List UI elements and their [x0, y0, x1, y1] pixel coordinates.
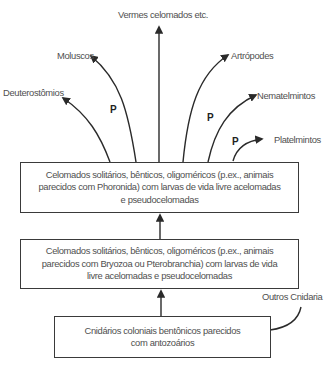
box-text-line: parecidos com Phoronida) com larvas de v… [38, 181, 280, 194]
p-mark-platelmintos: P [232, 137, 239, 147]
box-cnidaria-level: Cnidários coloniais bentônicos parecidos… [54, 316, 271, 358]
label-artropodes: Artrópodes [231, 50, 273, 61]
label-outros-cnidaria: Outros Cnidaria [262, 291, 322, 302]
box-text-line: Celomados solitários, bênticos, oligomér… [46, 245, 274, 258]
box-bryozoa-level: Celomados solitários, bênticos, oligomér… [20, 239, 299, 289]
label-deuterostomios: Deuterostômios [3, 87, 64, 98]
label-moluscos: Moluscos [57, 50, 94, 61]
p-mark-nematelmintos: P [207, 113, 214, 123]
arrow-nematelmintos [208, 95, 256, 162]
p-mark-moluscos: P [110, 105, 117, 115]
box-text-line: com antozoários [131, 337, 195, 350]
arrow-deuterostomios [63, 98, 110, 162]
box-text-line: parecidos com Bryozoa ou Pterobranchia) … [42, 258, 278, 271]
branch-outros-cnidaria [270, 307, 301, 330]
box-phoronida-level: Celomados solitários, bênticos, oligomér… [20, 162, 299, 213]
box-text-line: Celomados solitários, bênticos, oligomér… [46, 169, 274, 182]
label-vermes: Vermes celomados etc. [118, 9, 208, 20]
box-text-line: livre acelomadas e pseudocelomadas [87, 270, 232, 283]
label-platelmintos: Platelmintos [274, 134, 321, 145]
box-text-line: e pseudocelomadas [121, 194, 199, 207]
box-text-line: Cnidários coloniais bentônicos parecidos [85, 325, 241, 338]
arrow-artropodes [183, 55, 228, 162]
label-nematelmintos: Nematelmintos [257, 90, 315, 101]
